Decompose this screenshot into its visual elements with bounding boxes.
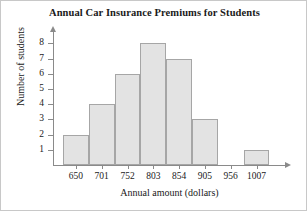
bar bbox=[244, 150, 270, 165]
y-axis-tick bbox=[48, 104, 54, 105]
y-axis-tick bbox=[48, 59, 54, 60]
y-axis-tick bbox=[48, 74, 54, 75]
x-axis-arrow-icon bbox=[285, 162, 291, 168]
y-axis-tick-label: 1 bbox=[28, 144, 44, 154]
bar bbox=[115, 74, 141, 165]
x-axis-tick bbox=[205, 165, 206, 169]
y-axis-line bbox=[53, 31, 54, 165]
x-axis-tick bbox=[257, 165, 258, 169]
x-axis-title: Annual amount (dollars) bbox=[53, 187, 286, 198]
plot-area: 87654321 6507017528038549059561007 Numbe… bbox=[1, 1, 307, 211]
y-axis-tick-label: 3 bbox=[28, 113, 44, 123]
bar bbox=[166, 59, 192, 165]
y-axis-tick bbox=[48, 150, 54, 151]
x-axis-tick bbox=[76, 165, 77, 169]
y-axis-tick bbox=[48, 89, 54, 90]
x-axis-tick-label: 1007 bbox=[237, 171, 277, 181]
y-axis-arrow-icon bbox=[50, 26, 56, 32]
x-axis-tick bbox=[128, 165, 129, 169]
histogram-figure: Annual Car Insurance Premiums for Studen… bbox=[0, 0, 307, 211]
x-axis-line bbox=[53, 165, 286, 166]
y-axis-tick bbox=[48, 135, 54, 136]
x-axis-tick bbox=[231, 165, 232, 169]
y-axis-tick-label: 2 bbox=[28, 129, 44, 139]
y-axis-tick-label: 5 bbox=[28, 83, 44, 93]
bar bbox=[89, 104, 115, 165]
y-axis-tick-label: 8 bbox=[28, 37, 44, 47]
y-axis-tick bbox=[48, 119, 54, 120]
y-axis-tick-label: 6 bbox=[28, 68, 44, 78]
bar bbox=[63, 135, 89, 165]
x-axis-tick bbox=[102, 165, 103, 169]
y-axis-title: Number of students bbox=[15, 12, 26, 122]
x-axis-tick bbox=[179, 165, 180, 169]
x-axis-tick bbox=[153, 165, 154, 169]
y-axis-tick-label: 7 bbox=[28, 53, 44, 63]
bar bbox=[192, 119, 218, 165]
y-axis-tick-label: 4 bbox=[28, 98, 44, 108]
bar bbox=[140, 43, 166, 165]
y-axis-tick bbox=[48, 43, 54, 44]
